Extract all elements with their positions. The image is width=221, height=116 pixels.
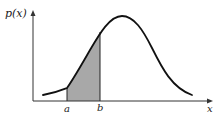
density-diagram [0,0,221,116]
density-curve [43,16,192,95]
y-axis-arrow-icon [31,10,36,16]
y-axis-label: p(x) [5,8,27,19]
x-axis-label: x [207,104,213,114]
interval-start-label: a [64,104,70,114]
interval-end-label: b [97,103,103,113]
